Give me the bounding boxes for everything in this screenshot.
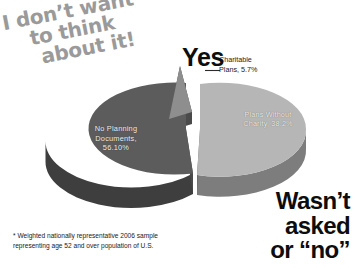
footnote-line2: representing age 52 and over population … bbox=[13, 241, 223, 251]
annotation-yes: Yes bbox=[182, 43, 224, 72]
footnote-line1: * Weighted nationally representative 200… bbox=[13, 231, 223, 241]
slice-label-charitable-plans-line2: Plans, 5.7% bbox=[219, 65, 257, 74]
footnote: * Weighted nationally representative 200… bbox=[13, 231, 223, 251]
annotation-wasnt-line1: Wasn’t bbox=[200, 189, 350, 214]
slice-label-charitable-plans-line1: Charitable bbox=[219, 55, 252, 64]
annotation-wasnt-asked-or-no: Wasn’t asked or “no” bbox=[200, 189, 350, 263]
slice-label-charitable-plans: Charitable Plans, 5.7% bbox=[219, 55, 297, 74]
chart-canvas: No Planning Documents, 56.10% Plans With… bbox=[0, 0, 355, 269]
